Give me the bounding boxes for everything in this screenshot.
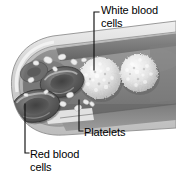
platelet: [23, 93, 28, 97]
blood-vessel-figure: White blood cells Platelets Red blood ce…: [0, 0, 176, 181]
label-white-blood-cells: White blood cells: [101, 4, 158, 29]
label-platelets: Platelets: [84, 126, 125, 139]
label-red-blood-cells: Red blood cells: [30, 148, 79, 173]
